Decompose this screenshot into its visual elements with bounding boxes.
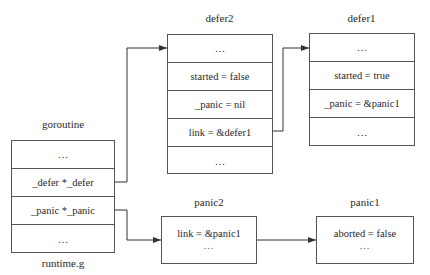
arrow-defer2-to-defer1 — [273, 48, 309, 131]
connector-arrows — [0, 0, 430, 275]
arrow-defer-to-defer2 — [115, 48, 167, 182]
arrow-panic-to-panic2 — [115, 210, 161, 240]
